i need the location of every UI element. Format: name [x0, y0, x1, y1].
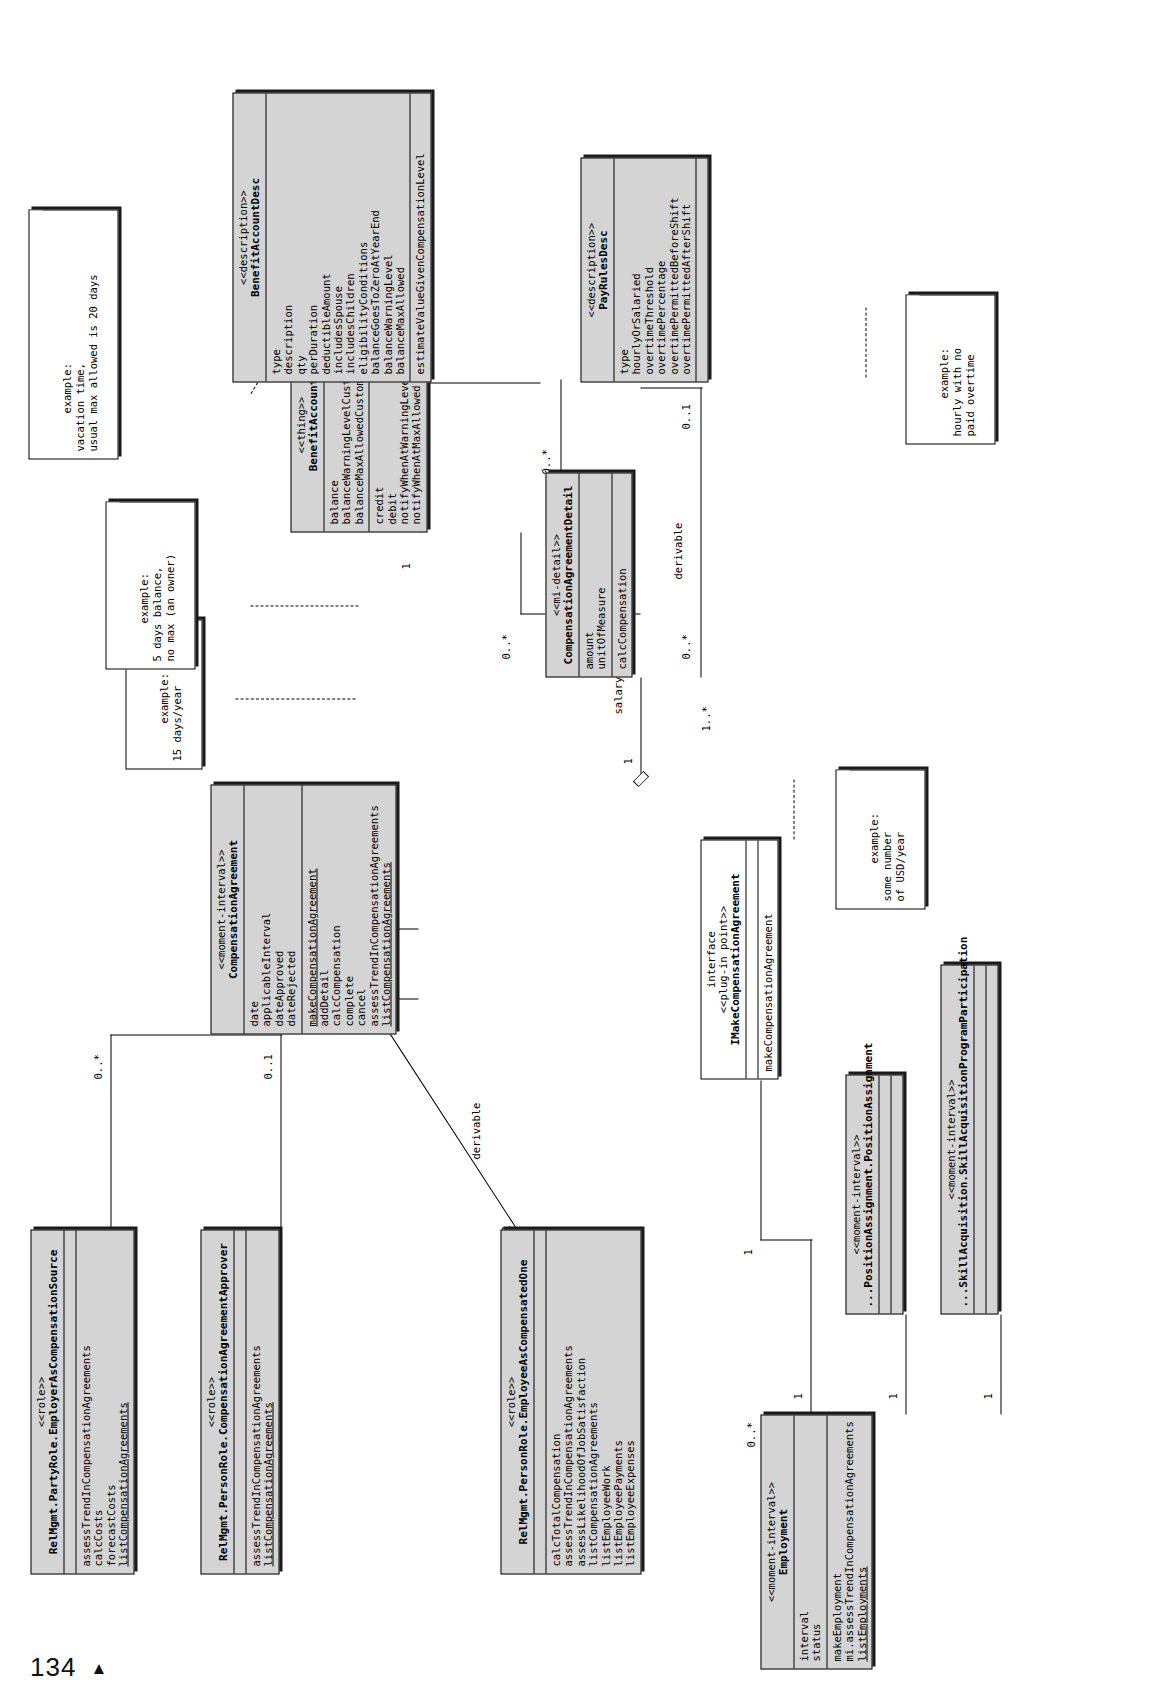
operation: listCompensationAgreements	[586, 1236, 598, 1566]
figure-page: 0..* 0..1 0..* 0..* 1 1..* 0..* 1 0..* 0…	[0, 0, 1176, 1699]
operation-compartment	[891, 1075, 902, 1313]
attribute: overtimePercentage	[654, 164, 666, 374]
class-header: <<moment-interval>> ...PositionAssignmen…	[846, 1075, 879, 1313]
attribute: eligibilityConditions	[356, 99, 368, 374]
attribute: perDuration	[306, 99, 318, 374]
note-leader	[235, 698, 355, 699]
note-text: example: vacation time, usual max allowe…	[60, 274, 98, 451]
operation-compartment	[696, 158, 707, 381]
attribute-compartment	[234, 1230, 246, 1573]
operation-compartment: makeCompensationAgreement	[758, 840, 777, 1078]
class-imake-compensation-agreement[interactable]: interface <<plug-in point>> IMakeCompens…	[700, 839, 778, 1079]
uml-class-diagram: 0..* 0..1 0..* 0..* 1 1..* 0..* 1 0..* 0…	[0, 0, 1176, 1699]
operation: makeCompensationAgreement	[305, 791, 317, 1026]
operation-compartment: calcTotalCompensation assessTrendInCompe…	[546, 1230, 640, 1573]
connector	[1000, 1314, 1001, 1414]
class-name: RelMgmt.PartyRole.EmployerAsCompensation…	[46, 1236, 59, 1567]
attribute-compartment: type hourlyOrSalaried overtimeThreshold …	[614, 158, 696, 381]
class-benefit-account-desc[interactable]: <<description>> BenefitAccountDesc type …	[232, 92, 431, 382]
attribute: dateRejected	[284, 791, 296, 1026]
attribute: hourlyOrSalaried	[629, 164, 641, 374]
operation: assessTrendInCompensationAgreements	[367, 791, 379, 1026]
dogear-icon	[29, 210, 42, 223]
operation: listCompensationAgreements	[379, 791, 391, 1026]
class-compensation-agreement-detail[interactable]: <<mi-detail>> CompensationAgreementDetai…	[545, 472, 632, 677]
operation: forecastCosts	[104, 1236, 116, 1566]
class-position-assignment[interactable]: <<moment-interval>> ...PositionAssignmen…	[845, 1074, 903, 1314]
note-leader	[793, 779, 794, 839]
operation: estimateValueGivenCompensationLevel	[413, 99, 425, 374]
attribute-compartment: amount unitOfMeasure	[579, 473, 612, 676]
class-skill-acquisition-program-participation[interactable]: <<moment-interval>> ...SkillAcquisition.…	[940, 964, 998, 1314]
stereotype: <<role>>	[504, 1236, 516, 1567]
class-employer-as-compensation-source[interactable]: <<role>> RelMgmt.PartyRole.EmployerAsCom…	[30, 1229, 134, 1574]
multiplicity: 1	[622, 758, 633, 764]
connector	[110, 1034, 111, 1229]
operation-compartment: assessTrendInCompensationAgreements calc…	[76, 1230, 133, 1573]
attribute: includesChildren	[343, 99, 355, 374]
class-header: <<description>> PayRulesDesc	[581, 158, 614, 381]
connector	[560, 379, 561, 479]
operation-compartment	[986, 965, 997, 1313]
connector	[520, 532, 521, 614]
operation: listEmployeeExpenses	[623, 1236, 635, 1566]
label-derivable-left: derivable	[470, 1102, 481, 1159]
attribute-compartment: date applicableInterval dateApproved dat…	[244, 785, 302, 1033]
class-header: <<role>> RelMgmt.PartyRole.EmployerAsCom…	[31, 1230, 64, 1573]
attribute-compartment	[534, 1230, 546, 1573]
connector	[420, 382, 540, 383]
operation: complete	[342, 791, 354, 1026]
operation: calcCompensation	[615, 479, 627, 669]
attribute: balanceGoesToZeroAtYearEnd	[368, 99, 380, 374]
note-text: example: hourly with no paid overtime	[937, 347, 975, 436]
attribute: date	[247, 791, 259, 1026]
class-pay-rules-desc[interactable]: <<description>> PayRulesDesc type hourly…	[580, 157, 708, 382]
attribute-compartment	[974, 965, 986, 1313]
dogear-icon	[906, 295, 919, 308]
attribute: qty	[294, 99, 306, 374]
operation: assessTrendInCompensationAgreements	[79, 1236, 91, 1566]
attribute: deductibleAmount	[319, 99, 331, 374]
class-name: RelMgmt.PersonRole.CompensationAgreement…	[216, 1236, 229, 1567]
operation: mi.assessTrendInCompensationAgreements	[842, 1421, 854, 1661]
stereotype: <<moment-interval>>	[944, 971, 956, 1307]
stereotype: <<description>>	[236, 99, 248, 375]
attribute: includesSpouse	[331, 99, 343, 374]
note-leader	[250, 605, 358, 606]
connector	[280, 1034, 281, 1229]
operation: calcCosts	[91, 1236, 103, 1566]
operation-compartment: calcCompensation	[612, 473, 631, 676]
operation-compartment: makeEmployment mi.assessTrendInCompensat…	[827, 1415, 871, 1668]
stereotype: <<role>>	[204, 1236, 216, 1567]
class-name: RelMgmt.PersonRole.EmployeeAsCompensated…	[516, 1236, 529, 1567]
attribute: balanceMaxAllowed	[393, 99, 405, 374]
attribute: unitOfMeasure	[594, 479, 606, 669]
operation: assessTrendInCompensationAgreements	[249, 1236, 261, 1566]
attribute-compartment	[879, 1075, 891, 1313]
class-compensation-agreement-approver[interactable]: <<role>> RelMgmt.PersonRole.Compensation…	[200, 1229, 279, 1574]
class-name: ...PositionAssignment.PositionAssignment	[861, 1081, 874, 1307]
multiplicity: 0..*	[500, 634, 511, 659]
class-name: CompensationAgreement	[226, 791, 239, 1027]
class-name: PayRulesDesc	[596, 164, 609, 375]
class-name: IMakeCompensationAgreement	[728, 846, 741, 1072]
connector-derivable-left	[386, 1029, 516, 1229]
operation: assessLikelihoodOfJobSatisfaction	[574, 1236, 586, 1566]
operation: addDetail	[317, 791, 329, 1026]
stereotype: <<moment-interval>>	[214, 791, 226, 1027]
page-number: 134	[30, 1652, 76, 1682]
operation: listCompensationAgreements	[261, 1236, 273, 1566]
operation: listEmployments	[855, 1421, 867, 1661]
multiplicity: 0..*	[540, 449, 551, 474]
attribute: type	[269, 99, 281, 374]
attribute: description	[281, 99, 293, 374]
attribute: overtimeThreshold	[642, 164, 654, 374]
multiplicity: 1	[792, 1393, 803, 1399]
class-compensation-agreement[interactable]: <<moment-interval>> CompensationAgreemen…	[210, 784, 396, 1034]
class-employee-as-compensated-one[interactable]: <<role>> RelMgmt.PersonRole.EmployeeAsCo…	[500, 1229, 641, 1574]
connector	[110, 1034, 210, 1035]
operation: listCompensationAgreements	[116, 1236, 128, 1566]
attribute-compartment	[64, 1230, 76, 1573]
attribute: dateApproved	[272, 791, 284, 1026]
class-employment[interactable]: <<moment-interval>> Employment interval …	[760, 1414, 872, 1669]
